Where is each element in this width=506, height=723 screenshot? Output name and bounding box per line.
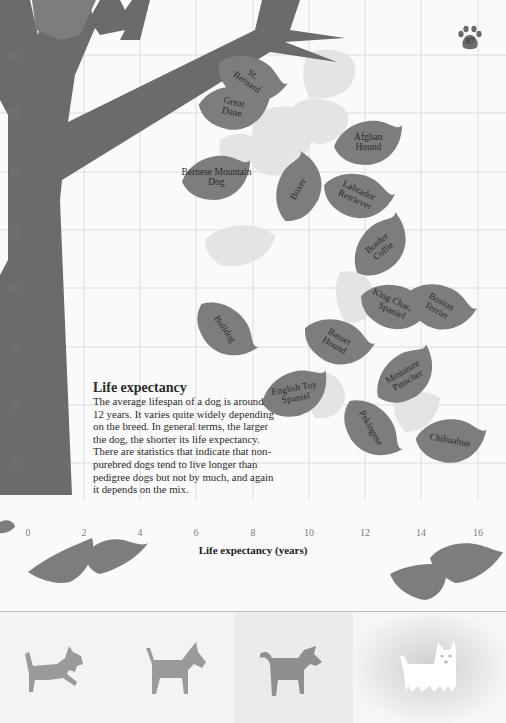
footer-cell-1 xyxy=(0,612,117,723)
footer-dog-icons xyxy=(0,612,506,723)
footer-cell-2 xyxy=(117,612,235,723)
fallen-leaves xyxy=(0,0,506,612)
dog-walking-icon xyxy=(254,634,334,702)
dog-playing-icon xyxy=(19,634,99,702)
infographic-page: 80 70 60 50 40 30 20 10 St.BernardGreatD… xyxy=(0,0,506,612)
footer-cell-3 xyxy=(235,612,353,723)
dog-standing-icon xyxy=(136,634,216,702)
dog-white-icon xyxy=(390,634,470,702)
footer-cell-4-highlighted xyxy=(353,612,506,723)
